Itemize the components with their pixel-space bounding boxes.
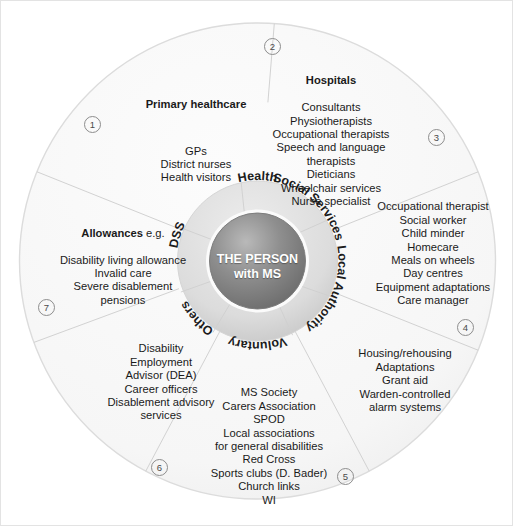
sector-heading-allowances-suffix: e.g. [143,227,165,239]
marker-6: 6 [151,459,168,476]
sector-heading-allowances: Allowances e.g. [35,213,211,240]
sector-items-allowances-dss: Disability living allowance Invalid care… [35,254,211,308]
sector-heading-hospitals: Hospitals [251,74,411,87]
marker-1: 1 [84,116,101,133]
sector-heading-allowances-main: Allowances [81,227,143,239]
marker-3: 3 [428,129,445,146]
sector-items-local-authority: Housing/rehousing Adaptations Grant aid … [335,347,475,414]
sector-allowances-dss: Allowances e.g. Disability living allowa… [35,200,211,321]
marker-4: 4 [457,319,474,336]
marker-7: 7 [38,299,55,316]
sector-others-employment: Disability Employment Advisor (DEA) Care… [85,329,237,436]
sector-local-authority: Housing/rehousing Adaptations Grant aid … [335,334,475,428]
marker-2: 2 [264,38,281,55]
sector-items-others-employment: Disability Employment Advisor (DEA) Care… [85,342,237,422]
marker-5: 5 [337,468,354,485]
sector-items-social-services: Occupational therapist Social worker Chi… [359,200,507,307]
diagram-canvas: Health Social Services Local Authority V… [0,0,513,526]
sector-social-services: Occupational therapist Social worker Chi… [359,187,507,321]
